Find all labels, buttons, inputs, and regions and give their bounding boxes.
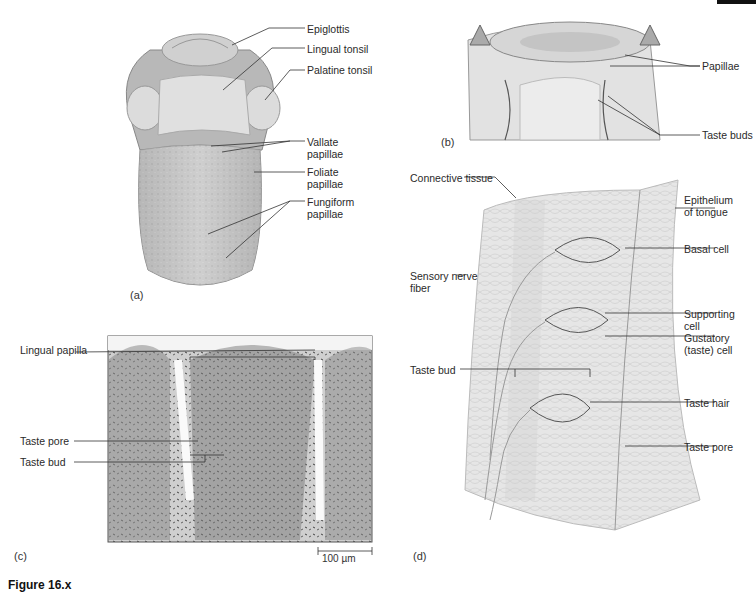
label-supporting-cell-1: Supporting	[684, 308, 735, 320]
panel-letter-d: (d)	[413, 550, 426, 562]
label-fungiform-papillae-1: Fungiform	[307, 196, 354, 208]
label-lingual-papilla: Lingual papilla	[20, 344, 87, 356]
label-gustatory-cell-2: (taste) cell	[684, 344, 732, 356]
label-foliate-papillae-2: papillae	[307, 178, 343, 190]
label-taste-pore-d: Taste pore	[684, 441, 733, 453]
label-vallate-papillae-1: Vallate	[307, 136, 338, 148]
label-sensory-nerve-2: fiber	[410, 282, 430, 294]
label-gustatory-cell-1: Gustatory	[684, 332, 730, 344]
scale-bar-label: 100 µm	[322, 553, 356, 564]
label-vallate-papillae-2: papillae	[307, 148, 343, 160]
label-foliate-papillae-1: Foliate	[307, 166, 339, 178]
vallate-papilla-illustration	[468, 22, 660, 140]
label-connective-tissue: Connective tissue	[410, 172, 493, 184]
panel-letter-c: (c)	[14, 550, 27, 562]
label-supporting-cell-2: cell	[684, 320, 700, 332]
label-basal-cell: Basal cell	[684, 243, 729, 255]
micrograph	[108, 336, 372, 542]
label-epithelium-2: of tongue	[684, 206, 728, 218]
label-taste-hair: Taste hair	[684, 397, 730, 409]
panel-letter-a: (a)	[130, 289, 143, 301]
label-lingual-tonsil: Lingual tonsil	[307, 43, 368, 55]
label-taste-bud-d: Taste bud	[410, 364, 456, 376]
label-sensory-nerve-1: Sensory nerve	[410, 270, 478, 282]
label-papillae: Papillae	[702, 60, 739, 72]
label-taste-buds: Taste buds	[702, 129, 753, 141]
figure-caption: Figure 16.x	[8, 578, 71, 592]
tongue-illustration	[126, 34, 280, 285]
label-epiglottis: Epiglottis	[307, 23, 350, 35]
taste-bud-block	[465, 180, 700, 530]
label-taste-pore-c: Taste pore	[20, 435, 69, 447]
label-fungiform-papillae-2: papillae	[307, 208, 343, 220]
label-taste-bud-c: Taste bud	[20, 456, 66, 468]
label-epithelium-1: Epithelium	[684, 194, 733, 206]
panel-letter-b: (b)	[441, 136, 454, 148]
label-palatine-tonsil: Palatine tonsil	[307, 64, 372, 76]
